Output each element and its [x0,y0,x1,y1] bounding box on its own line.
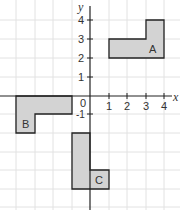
x-tick-3: 3 [143,100,149,112]
y-tick-4: 4 [78,14,84,26]
shape-c-label: C [95,174,103,186]
y-tick-neg-1: -1 [76,109,85,120]
y-tick-3: 3 [78,33,84,45]
y-tick-2: 2 [78,52,84,64]
coordinate-grid: 1 2 3 4 4 3 2 1 0 -1 x y A B C [0,0,180,210]
shape-b-label: B [22,118,29,130]
origin-label: 0 [80,97,86,109]
shape-a-label: A [149,43,157,55]
x-tick-1: 1 [106,100,112,112]
y-axis-label: y [77,0,84,14]
x-axis-label: x [172,90,179,104]
y-tick-1: 1 [78,71,84,83]
x-tick-4: 4 [161,100,167,112]
x-tick-2: 2 [124,100,130,112]
